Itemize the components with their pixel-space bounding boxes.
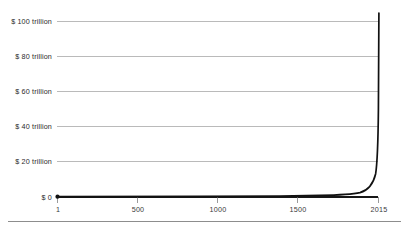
x-tick-label-2015: 2015 <box>371 205 388 214</box>
x-axis-labels-group: 1 500 1000 1500 2015 <box>56 205 388 214</box>
y-tick-label-60-trillion: $ 60 trillion <box>15 87 52 96</box>
world-gdp-curve <box>57 13 379 197</box>
x-tick-label-1: 1 <box>56 205 60 214</box>
chart-container: $ 100 trillion $ 80 trillion $ 60 trilli… <box>0 0 409 232</box>
curve-start-marker <box>55 195 59 199</box>
y-tick-label-20-trillion: $ 20 trillion <box>15 157 52 166</box>
y-tick-label-40-trillion: $ 40 trillion <box>15 122 52 131</box>
x-tick-label-1000: 1000 <box>210 205 227 214</box>
y-axis-labels-group: $ 100 trillion $ 80 trillion $ 60 trilli… <box>11 17 52 202</box>
x-tick-label-1500: 1500 <box>290 205 307 214</box>
exponential-growth-line-chart: $ 100 trillion $ 80 trillion $ 60 trilli… <box>0 0 409 232</box>
gridlines-group <box>57 22 378 162</box>
x-axis-ticks-group <box>58 197 379 203</box>
x-tick-label-500: 500 <box>132 205 145 214</box>
y-tick-label-100-trillion: $ 100 trillion <box>11 17 52 26</box>
y-tick-label-80-trillion: $ 80 trillion <box>15 52 52 61</box>
y-tick-label-zero: $ 0 <box>42 193 52 202</box>
